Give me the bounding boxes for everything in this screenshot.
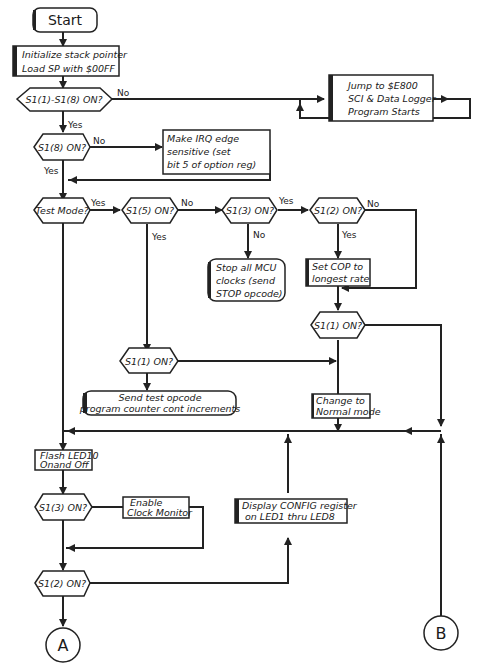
svg-text:S1(1) ON?: S1(1) ON? (125, 356, 173, 367)
flash-led-box: Flash LED10 Onand Off (35, 450, 99, 470)
display-config-box: Display CONFIG register on LED1 thru LED… (235, 499, 358, 523)
svg-text:B: B (436, 624, 447, 643)
irq-edge-box: Make IRQ edge sensitive (set bit 5 of op… (163, 130, 270, 174)
svg-text:Normal mode: Normal mode (316, 406, 381, 417)
decision-s1-2-upper: S1(2) ON? No Yes (310, 198, 380, 240)
svg-text:Onand Off: Onand Off (40, 459, 90, 470)
svg-text:S1(2) ON?: S1(2) ON? (38, 578, 86, 589)
svg-text:Display CONFIG register: Display CONFIG register (242, 500, 358, 511)
init-stack-box: Initialize stack pointer Load SP with $0… (13, 46, 128, 76)
svg-text:Yes: Yes (90, 198, 106, 208)
decision-s1-3-upper: S1(3) ON? Yes No (222, 196, 294, 240)
svg-text:No: No (367, 199, 380, 209)
start-terminal: Start (33, 8, 97, 32)
svg-text:S1(3) ON?: S1(3) ON? (39, 502, 87, 513)
clock-monitor-box: Enable Clock Monitor (123, 497, 193, 518)
svg-text:STOP opcode): STOP opcode) (216, 288, 283, 299)
svg-text:Program Starts: Program Starts (348, 106, 420, 117)
svg-text:No: No (93, 136, 106, 146)
decision-s1-8: S1(8) ON? No Yes (34, 134, 106, 176)
start-label: Start (48, 12, 83, 28)
svg-text:clocks (send: clocks (send (216, 275, 276, 286)
svg-text:Initialize stack pointer: Initialize stack pointer (22, 49, 128, 60)
svg-text:S1(1)-S1(8) ON?: S1(1)-S1(8) ON? (25, 94, 102, 105)
jump-e800-box: Jump to $E800 SCI & Data Logger Program … (329, 75, 437, 121)
svg-text:Test Mode?: Test Mode? (35, 205, 88, 216)
svg-text:No: No (253, 230, 266, 240)
svg-text:A: A (58, 636, 69, 655)
test-opcode-box: Send test opcode program counter cont in… (79, 391, 241, 415)
flowchart-canvas: Start Initialize stack pointer Load SP w… (0, 0, 481, 670)
svg-text:Send test opcode: Send test opcode (119, 392, 202, 403)
svg-text:Yes: Yes (278, 196, 294, 206)
svg-text:Yes: Yes (341, 230, 357, 240)
svg-text:sensitive (set: sensitive (set (167, 146, 232, 157)
svg-text:Load SP with $00FF: Load SP with $00FF (22, 63, 116, 74)
svg-text:S1(1) ON?: S1(1) ON? (314, 320, 362, 331)
edge-label-yes: Yes (67, 120, 83, 130)
decision-s1-5: S1(5) ON? No Yes (122, 198, 194, 242)
flow-lines (63, 32, 470, 650)
svg-text:program counter cont increment: program counter cont increments (79, 403, 241, 414)
svg-text:on LED1 thru LED8: on LED1 thru LED8 (245, 511, 335, 522)
normal-mode-box: Change to Normal mode (312, 394, 381, 418)
svg-text:S1(2) ON?: S1(2) ON? (314, 205, 362, 216)
stop-clocks-box: Stop all MCU clocks (send STOP opcode) (208, 259, 285, 301)
svg-text:S1(3) ON?: S1(3) ON? (226, 205, 274, 216)
svg-text:Set COP to: Set COP to (312, 261, 363, 272)
connector-a: A (46, 628, 80, 662)
decision-s1-3-lower: S1(3) ON? (35, 494, 92, 520)
svg-text:Stop all MCU: Stop all MCU (216, 262, 277, 273)
svg-text:Yes: Yes (43, 166, 59, 176)
edge-label-no: No (117, 88, 130, 98)
svg-text:SCI & Data Logger: SCI & Data Logger (348, 93, 437, 104)
svg-text:No: No (181, 198, 194, 208)
cop-rate-box: Set COP to longest rate (306, 259, 370, 286)
decision-s1-2-lower: S1(2) ON? (35, 571, 90, 596)
svg-text:Clock Monitor: Clock Monitor (127, 507, 193, 518)
svg-text:longest rate: longest rate (312, 273, 369, 284)
svg-text:Yes: Yes (151, 232, 167, 242)
svg-text:S1(8) ON?: S1(8) ON? (38, 142, 86, 153)
decision-s1-1-right: S1(1) ON? (311, 312, 365, 338)
svg-text:Jump to $E800: Jump to $E800 (346, 80, 418, 91)
svg-text:bit 5 of option reg): bit 5 of option reg) (167, 159, 256, 170)
svg-text:S1(5) ON?: S1(5) ON? (126, 205, 174, 216)
decision-s1-1-left: S1(1) ON? (120, 348, 178, 373)
decision-all-switches: S1(1)-S1(8) ON? No Yes (17, 88, 130, 130)
svg-text:Change to: Change to (316, 395, 365, 406)
svg-text:Make IRQ edge: Make IRQ edge (167, 133, 239, 144)
connector-b: B (424, 616, 458, 650)
